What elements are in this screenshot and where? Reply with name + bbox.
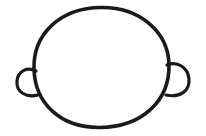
head-outline-icon <box>34 7 169 127</box>
head-drawing <box>0 0 206 136</box>
drawing-canvas <box>0 0 206 136</box>
